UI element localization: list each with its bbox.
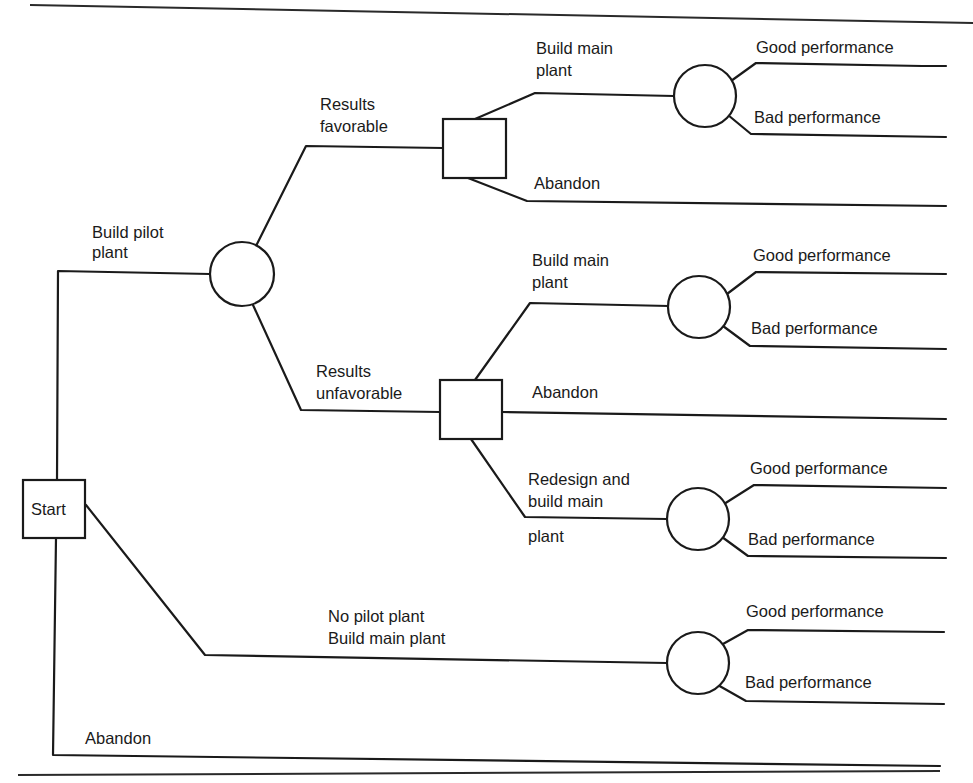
edge-abandon [53,538,940,766]
fav-build-main-label-2: plant [536,61,572,79]
start-node: Start [23,480,85,538]
chance-circle-a [674,65,736,127]
build-pilot-label-1: Build pilot [92,223,164,241]
chance-circle-d [667,632,729,694]
redesign-label-1: Redesign and [528,470,630,488]
c-bad-label: Bad performance [748,530,875,548]
d-bad-label: Bad performance [745,673,872,691]
unfavorable-decision-square [440,380,502,439]
favorable-decision-square [443,119,506,178]
b-bad-label: Bad performance [751,319,878,337]
edge-unfav-abandon [502,412,946,419]
a-bad-label: Bad performance [754,108,881,126]
results-favorable-label-2: favorable [320,117,388,135]
edge-c-good [724,485,946,504]
edge-results-favorable [256,146,443,246]
edge-b-good [727,272,946,294]
start-trunk [53,271,940,766]
edge-build-pilot [57,271,210,480]
decision-tree-diagram: Start Build pilot plant Results favorabl… [0,0,973,783]
redesign-label-2: build main [528,492,603,510]
results-unfavorable-label-1: Results [316,362,371,380]
abandon-root-label: Abandon [85,729,151,747]
unfav-build-main-label-1: Build main [532,251,609,269]
edge-d-good [714,630,944,649]
fav-build-main-label-1: Build main [536,39,613,57]
redesign-label-3: plant [528,527,564,545]
pilot-chance-circle [210,242,274,306]
edge-a-good [731,63,946,81]
chance-circle-c [667,488,729,550]
c-good-label: Good performance [750,459,888,477]
b-good-label: Good performance [753,246,891,264]
chance-circle-b [668,276,730,338]
d-good-label: Good performance [746,602,884,620]
a-good-label: Good performance [756,38,894,56]
top-rule [30,5,973,23]
no-pilot-label-1: No pilot plant [328,607,425,625]
unfav-abandon-label: Abandon [532,383,598,401]
edge-unfav-build-main [475,303,669,380]
results-unfavorable-label-2: unfavorable [316,384,402,402]
start-label: Start [31,500,66,518]
fav-abandon-label: Abandon [534,174,600,192]
results-favorable-label-1: Results [320,95,375,113]
unfav-build-main-label-2: plant [532,273,568,291]
no-pilot-label-2: Build main plant [328,629,446,647]
bottom-rule [18,771,940,775]
build-pilot-label-2: plant [92,243,128,261]
edge-fav-build-main [475,93,674,119]
